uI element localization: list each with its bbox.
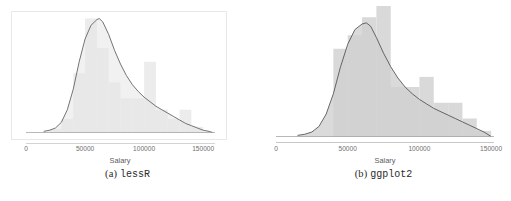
caption-prefix: (b) — [355, 168, 368, 179]
caption-package-name: lessR — [120, 169, 150, 180]
x-tick-label: 100000 — [133, 145, 155, 152]
caption-lessR: (a) lessR — [0, 168, 255, 180]
caption-prefix: (a) — [105, 168, 117, 179]
x-axis-label: Salary — [110, 156, 131, 165]
x-axis-label: Salary — [375, 156, 396, 165]
figure-two-panel-density-plots: 050000100000150000 Salary (a) lessR 0500… — [0, 0, 511, 201]
panel-ggplot2: 050000100000150000 Salary (b) ggplot2 — [256, 0, 511, 201]
x-tick-label: 50000 — [339, 145, 358, 152]
caption-ggplot2: (b) ggplot2 — [256, 168, 511, 180]
x-axis-tick-labels: 050000100000150000 — [24, 145, 214, 152]
x-tick-label: 50000 — [76, 145, 95, 152]
caption-package-name: ggplot2 — [370, 169, 412, 180]
plot-ggplot2: 050000100000150000 Salary — [256, 0, 511, 168]
x-tick-label: 0 — [24, 145, 28, 152]
x-axis-tick-labels: 050000100000150000 — [274, 145, 502, 152]
plot-lessR: 050000100000150000 Salary — [0, 0, 255, 168]
x-tick-label: 150000 — [192, 145, 214, 152]
panel-lessR: 050000100000150000 Salary (a) lessR — [0, 0, 255, 201]
x-tick-label: 100000 — [408, 145, 430, 152]
x-tick-label: 150000 — [480, 145, 502, 152]
x-tick-label: 0 — [274, 145, 278, 152]
